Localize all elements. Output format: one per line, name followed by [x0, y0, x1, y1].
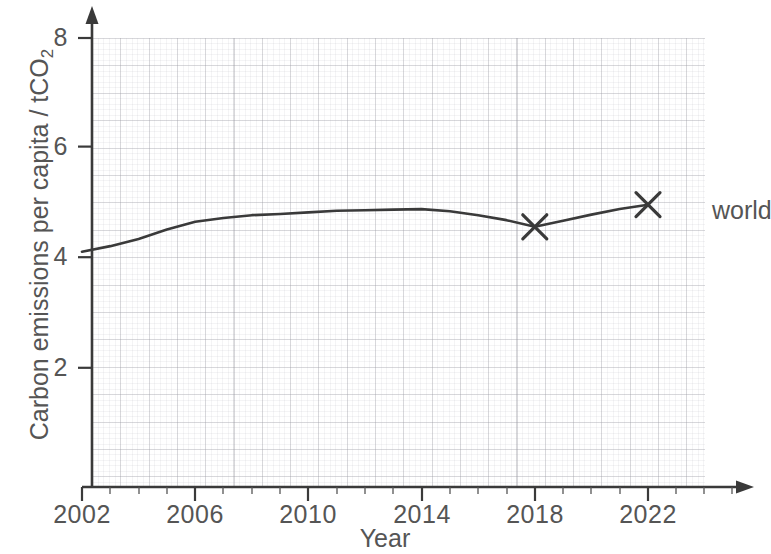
chart-plot-area [0, 0, 771, 554]
series-label-world: world [712, 196, 771, 225]
x-tick-label-2018: 2018 [480, 500, 590, 529]
x-axis-title: Year [300, 524, 470, 553]
x-tick-label-2022: 2022 [593, 500, 703, 529]
x-tick-label-2006: 2006 [140, 500, 250, 529]
x-tick-label-2002: 2002 [27, 500, 137, 529]
y-axis-title: Carbon emissions per capita / tCO2 [25, 10, 54, 480]
chart-container: 8 6 4 2 2002 2006 2010 2014 2018 2022 Ye… [0, 0, 771, 554]
series-line-world [82, 205, 648, 252]
y-axis-title-text: Carbon emissions per capita / tCO [25, 58, 53, 440]
y-axis-title-subscript: 2 [38, 49, 57, 58]
